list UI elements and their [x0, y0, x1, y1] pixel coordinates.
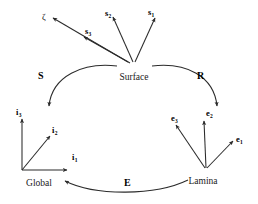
- vector-arrow-i2: [22, 136, 50, 170]
- vector-label-s3: s3: [85, 27, 91, 36]
- transform-arrow-r: [152, 65, 217, 106]
- vector-sub-s3: 3: [89, 31, 92, 37]
- vector-sub-e3: 3: [175, 118, 178, 124]
- vector-sub-s1: 1: [152, 12, 155, 18]
- node-label-lamina: Lamina: [188, 177, 217, 187]
- transform-label-e: E: [124, 178, 131, 188]
- vector-label-i2: i2: [52, 126, 57, 135]
- vector-sub-e2: 2: [210, 113, 213, 119]
- node-label-surface: Surface: [119, 73, 148, 83]
- vector-base-s3: s: [85, 26, 88, 36]
- vector-arrow-e3: [176, 125, 205, 168]
- vector-sub-s2: 2: [109, 13, 112, 19]
- vector-arrow-s1: [135, 18, 155, 62]
- transform-label-s: S: [38, 71, 44, 81]
- vector-label-e1: e1: [236, 135, 243, 144]
- vector-label-i3: i3: [16, 108, 21, 117]
- vector-arrow-e1: [207, 141, 233, 168]
- diagram-canvas: [0, 0, 258, 204]
- vector-arrow-e2: [204, 121, 206, 168]
- vector-label-e2: e2: [206, 109, 213, 118]
- vector-label-i1: i1: [72, 153, 77, 162]
- vector-sub-e1: 1: [240, 139, 243, 145]
- vector-label-zeta: ζ: [42, 13, 46, 22]
- node-label-global: Global: [26, 179, 52, 189]
- vector-label-s1: s1: [148, 8, 154, 17]
- vector-base-s1: s: [148, 7, 151, 17]
- coordinate-frame-diagram: Surface Global Lamina S R E ζ s3 s2 s1 i…: [0, 0, 258, 204]
- vector-label-e3: e3: [171, 114, 178, 123]
- vector-label-s2: s2: [105, 9, 111, 18]
- transform-arrow-s: [49, 65, 117, 106]
- vector-base-s2: s: [105, 8, 108, 18]
- transform-label-r: R: [197, 71, 204, 81]
